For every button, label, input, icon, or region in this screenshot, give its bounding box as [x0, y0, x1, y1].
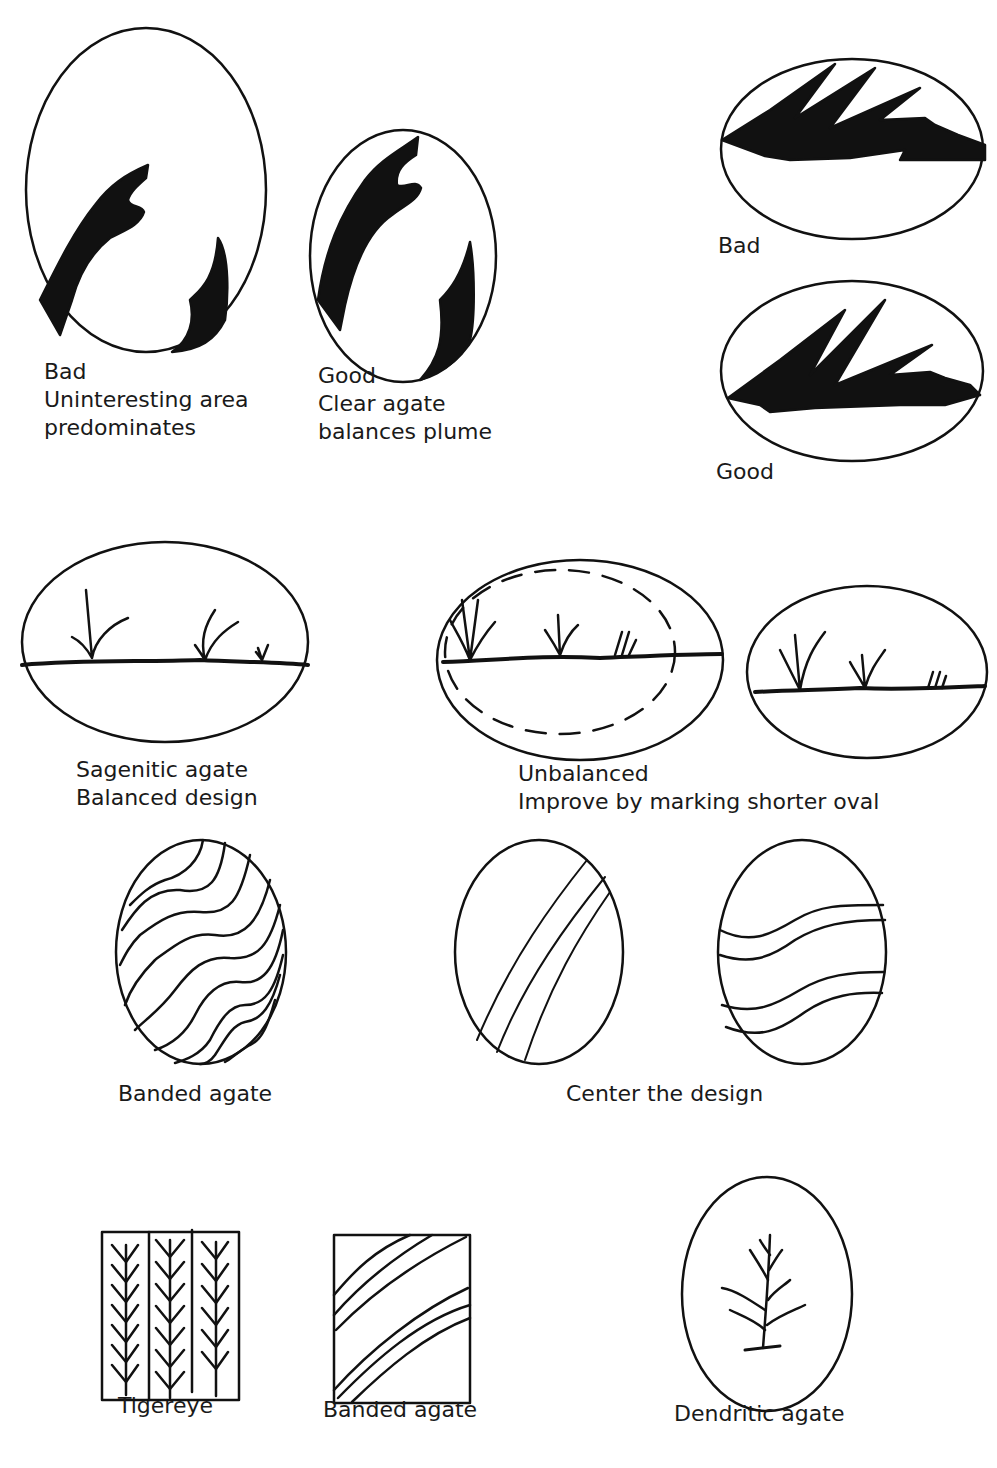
label-line: Clear agate [318, 390, 492, 418]
label-horizontal-good: Good [716, 458, 774, 486]
label-dendritic: Dendritic agate [674, 1400, 844, 1428]
label-horizontal-bad: Bad [718, 232, 761, 260]
oval-horizontal-good [721, 281, 983, 461]
rect-tigereye [102, 1230, 239, 1400]
label-banded-agate: Banded agate [118, 1080, 272, 1108]
label-banded-agate-rect: Banded agate [323, 1396, 477, 1424]
oval-sagenitic-balanced [22, 542, 308, 742]
oval-sagenitic-short [747, 586, 987, 758]
label-line: Unbalanced [518, 760, 879, 788]
rect-banded-agate [334, 1235, 470, 1403]
label-sagenitic-balanced: Sagenitic agate Balanced design [76, 756, 258, 812]
oval-center-a [455, 840, 623, 1064]
oval-center-b [718, 840, 886, 1064]
oval-sagenitic-unbalanced [437, 560, 723, 760]
label-sagenitic-unbalanced: Unbalanced Improve by marking shorter ov… [518, 760, 879, 816]
label-line: Good [318, 362, 492, 390]
label-line: Sagenitic agate [76, 756, 258, 784]
label-center-design: Center the design [566, 1080, 763, 1108]
diagram-canvas [0, 0, 997, 1468]
oval-horizontal-bad [721, 59, 985, 239]
oval-plume-good [310, 130, 496, 382]
label-line: Uninteresting area [44, 386, 249, 414]
label-line: balances plume [318, 418, 492, 446]
label-tigereye: Tigereye [118, 1392, 213, 1420]
label-line: Balanced design [76, 784, 258, 812]
oval-banded-agate [116, 840, 286, 1064]
label-line: predominates [44, 414, 249, 442]
label-plume-bad: Bad Uninteresting area predominates [44, 358, 249, 442]
label-line: Bad [44, 358, 249, 386]
oval-dendritic [682, 1177, 852, 1411]
label-plume-good: Good Clear agate balances plume [318, 362, 492, 446]
label-line: Improve by marking shorter oval [518, 788, 879, 816]
oval-plume-bad [26, 28, 266, 352]
